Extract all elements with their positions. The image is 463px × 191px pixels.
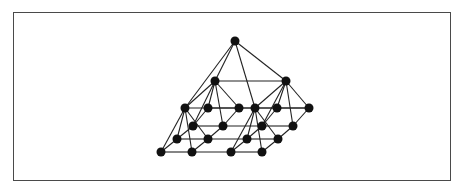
graph-node bbox=[231, 37, 240, 46]
graph-node bbox=[273, 104, 282, 113]
graph-edge bbox=[185, 41, 235, 108]
graph-node bbox=[258, 148, 267, 157]
graph-node bbox=[258, 122, 267, 131]
graph-edge bbox=[231, 108, 255, 152]
graph-edge bbox=[215, 41, 235, 81]
graph-node bbox=[204, 104, 213, 113]
graph-node bbox=[289, 122, 298, 131]
graph-node bbox=[305, 104, 314, 113]
graph-edge bbox=[235, 41, 286, 81]
graph-node bbox=[243, 135, 252, 144]
graph-node bbox=[282, 77, 291, 86]
graph-node bbox=[181, 104, 190, 113]
graph-node bbox=[157, 148, 166, 157]
graph-node bbox=[274, 135, 283, 144]
graph-edge bbox=[185, 81, 215, 108]
graph-edge bbox=[247, 108, 255, 139]
pyramid-graph bbox=[0, 0, 463, 191]
graph-node bbox=[204, 135, 213, 144]
graph-edge bbox=[235, 41, 255, 108]
graph-edge bbox=[177, 108, 185, 139]
graph-node bbox=[188, 148, 197, 157]
graph-node bbox=[189, 122, 198, 131]
graph-node bbox=[211, 77, 220, 86]
graph-node bbox=[173, 135, 182, 144]
graph-node bbox=[219, 122, 228, 131]
graph-edge bbox=[262, 81, 286, 126]
graph-node bbox=[235, 104, 244, 113]
graph-edges bbox=[161, 41, 309, 152]
graph-edge bbox=[161, 108, 185, 152]
graph-edge bbox=[215, 81, 223, 126]
graph-node bbox=[227, 148, 236, 157]
graph-node bbox=[251, 104, 260, 113]
graph-edge bbox=[193, 81, 215, 126]
